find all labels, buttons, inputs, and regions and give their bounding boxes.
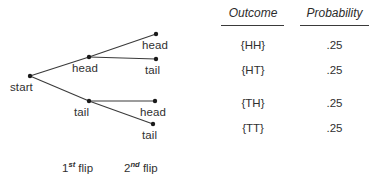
tree-label-hh: head (142, 39, 168, 51)
tree-edge-start-to-t1 (30, 76, 89, 101)
outcome-cell: {HH} (222, 39, 284, 51)
tree-node-hh (154, 32, 158, 36)
tree-label-start: start (10, 81, 33, 93)
probability-cell: .25 (299, 39, 370, 51)
tree-node-tt (151, 122, 155, 126)
probability-cell: .25 (299, 122, 370, 134)
tree-node-t1 (87, 99, 91, 103)
tree-node-h1 (87, 55, 91, 59)
probability-cell: .25 (299, 97, 370, 109)
tree-graphic (0, 0, 371, 184)
tree-node-start (28, 74, 32, 78)
outcome-cell: {TH} (222, 97, 284, 109)
flip-ordinal-suffix: nd (130, 160, 139, 169)
tree-nodes (28, 32, 158, 126)
outcome-cell: {HT} (222, 64, 284, 76)
flip-word: flip (75, 162, 93, 174)
flip-word: flip (140, 162, 158, 174)
tree-label-ht: tail (145, 64, 160, 76)
probability-tree-figure: startheadtailheadtailheadtail 1st flip2n… (0, 0, 371, 184)
probability-cell: .25 (299, 64, 370, 76)
tree-label-h1: head (72, 62, 98, 74)
table-header-probability: Probability (299, 6, 370, 20)
tree-label-t1: tail (74, 106, 89, 118)
tree-node-ht (154, 57, 158, 61)
table-header-outcome: Outcome (222, 6, 284, 20)
table-header-rule-probability (300, 25, 369, 26)
tree-node-th (153, 99, 157, 103)
outcome-cell: {TT} (222, 122, 284, 134)
tree-label-th: head (140, 106, 166, 118)
flip-label-1: 1st flip (62, 162, 93, 174)
tree-label-tt: tail (142, 129, 157, 141)
tree-edge-h1-to-ht (89, 57, 156, 59)
table-header-rule-outcome (221, 25, 284, 26)
flip-label-2: 2nd flip (124, 162, 158, 174)
tree-edges (30, 34, 156, 124)
